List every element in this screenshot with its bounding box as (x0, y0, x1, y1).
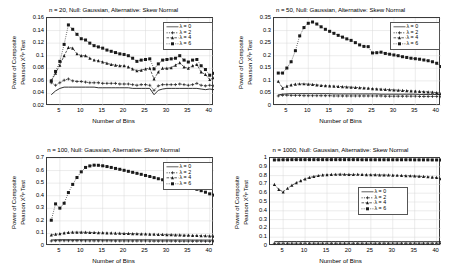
y-axis-label: Power of CompositePearson X2P Test (234, 158, 251, 246)
legend: λ = 0λ = 2λ = 4λ = 6 (358, 187, 408, 215)
legend-line-sample (361, 206, 374, 212)
y-axis-tick-label: 0.2 (259, 224, 267, 230)
x-axis-tick-label: 15 (325, 107, 331, 113)
y-axis-label: Power of CompositePearson X2P Test (238, 18, 255, 106)
x-axis-label: Number of Bins (0, 257, 227, 264)
y-axis-tick-label: 0.4 (259, 207, 267, 213)
y-axis-label: Power of CompositePearson X2P Test (11, 158, 28, 246)
legend-item: λ = 6 (359, 206, 407, 212)
x-axis-tick-label: 20 (120, 247, 126, 253)
x-axis-tick-label: 10 (304, 107, 310, 113)
y-axis-tick-label: 0.7 (36, 154, 44, 160)
x-axis-tick-label: 20 (347, 107, 353, 113)
x-axis-tick-label: 20 (120, 107, 126, 113)
x-axis-label: Number of Bins (227, 257, 454, 264)
y-axis-tick-label: 0.1 (263, 77, 271, 83)
subplot-top-right: n = 50, Null: Gaussian, Alternative: Ske… (227, 0, 454, 140)
x-axis-tick-label: 5 (281, 247, 284, 253)
x-axis-tick-label: 30 (163, 107, 169, 113)
y-axis-tick-label: 0.05 (260, 89, 271, 95)
x-axis-tick-label: 40 (205, 107, 211, 113)
y-axis-tick-label: 0.15 (260, 64, 271, 70)
x-axis-tick-label: 5 (57, 247, 60, 253)
x-axis-tick-label: 15 (323, 247, 329, 253)
x-axis-tick-label: 20 (345, 247, 351, 253)
y-axis-label-text: Power of CompositePearson X2P Test (11, 176, 26, 229)
x-axis-tick-label: 35 (184, 107, 190, 113)
x-axis-tick-label: 10 (77, 107, 83, 113)
y-axis-tick-label: 0.4 (36, 192, 44, 198)
x-axis-tick-label: 40 (432, 107, 438, 113)
y-axis-tick-label: 0.2 (263, 52, 271, 58)
legend-item: λ = 6 (164, 181, 212, 187)
subplot-title: n = 20, Null: Gaussian, Alternative: Ske… (0, 6, 227, 13)
legend: λ = 0λ = 2λ = 4λ = 6 (163, 162, 213, 190)
x-axis-tick-label: 10 (77, 247, 83, 253)
x-axis-label: Number of Bins (0, 117, 227, 124)
legend: λ = 0λ = 2λ = 4λ = 6 (390, 22, 440, 50)
y-axis-label-text: Power of CompositePearson X2P Test (238, 36, 253, 89)
y-axis-tick-label: 0.3 (263, 27, 271, 33)
x-axis-tick-label: 35 (410, 247, 416, 253)
y-axis-tick-label: 0.1 (36, 52, 44, 58)
y-axis-tick-label: 0.5 (259, 198, 267, 204)
y-axis-tick-label: 0.12 (33, 39, 44, 45)
y-axis-tick-label: 0.6 (36, 167, 44, 173)
x-axis-tick-label: 25 (141, 107, 147, 113)
subplot-bottom-left: n = 100, Null: Gaussian, Alternative: Sk… (0, 140, 227, 280)
y-axis-tick-label: 0.02 (33, 102, 44, 108)
y-axis-label-text: Power of CompositePearson X2P Test (11, 36, 26, 89)
x-axis-tick-label: 15 (98, 107, 104, 113)
y-axis-tick-label: 1 (264, 154, 267, 160)
subplot-title: n = 50, Null: Gaussian, Alternative: Ske… (227, 6, 454, 13)
legend-label: λ = 6 (407, 41, 419, 47)
y-axis-label: Power of CompositePearson X2P Test (11, 18, 28, 106)
subplot-title: n = 100, Null: Gaussian, Alternative: Sk… (0, 146, 227, 153)
y-axis-tick-label: 0.04 (33, 89, 44, 95)
x-axis-tick-label: 40 (205, 247, 211, 253)
x-axis-tick-label: 30 (389, 247, 395, 253)
subplot-top-left: n = 20, Null: Gaussian, Alternative: Ske… (0, 0, 227, 140)
legend-item: λ = 6 (391, 41, 439, 47)
y-axis-tick-label: 0.3 (259, 216, 267, 222)
y-axis-label-text: Power of CompositePearson X2P Test (234, 176, 249, 229)
y-axis-tick-label: 0.3 (36, 204, 44, 210)
x-axis-tick-label: 30 (390, 107, 396, 113)
y-axis-tick-label: 0.1 (259, 233, 267, 239)
x-axis-tick-label: 30 (163, 247, 169, 253)
x-axis-tick-label: 5 (284, 107, 287, 113)
y-axis-tick-label: 0.16 (33, 14, 44, 20)
y-axis-tick-label: 0.06 (33, 77, 44, 83)
x-axis-tick-label: 25 (368, 107, 374, 113)
y-axis-tick-label: 0.9 (259, 163, 267, 169)
y-axis-tick-label: 0.6 (259, 189, 267, 195)
x-axis-tick-label: 25 (367, 247, 373, 253)
power-curves-figure: n = 20, Null: Gaussian, Alternative: Ske… (0, 0, 454, 280)
y-axis-tick-label: 0.5 (36, 179, 44, 185)
x-axis-tick-label: 35 (411, 107, 417, 113)
y-axis-tick-label: 0 (264, 242, 267, 248)
legend-item: λ = 6 (164, 41, 212, 47)
y-axis-tick-label: 0.14 (33, 27, 44, 33)
legend-label: λ = 6 (180, 41, 192, 47)
x-axis-tick-label: 25 (141, 247, 147, 253)
legend: λ = 0λ = 2λ = 4λ = 6 (163, 22, 213, 50)
plot-area (269, 157, 440, 245)
y-axis-tick-label: 0.8 (259, 172, 267, 178)
y-axis-tick-label: 0.08 (33, 64, 44, 70)
y-axis-tick-label: 0.1 (36, 229, 44, 235)
subplot-bottom-right: n = 1000, Null: Gaussian, Alternative: S… (227, 140, 454, 280)
y-axis-tick-label: 0.7 (259, 180, 267, 186)
legend-line-sample (166, 41, 179, 47)
x-axis-tick-label: 15 (98, 247, 104, 253)
x-axis-tick-label: 10 (301, 247, 307, 253)
legend-label: λ = 6 (180, 181, 192, 187)
y-axis-tick-label: 0 (41, 242, 44, 248)
x-axis-tick-label: 40 (432, 247, 438, 253)
y-axis-tick-label: 0.2 (36, 217, 44, 223)
y-axis-tick-label: 0 (268, 102, 271, 108)
y-axis-tick-label: 0.35 (260, 14, 271, 20)
x-axis-tick-label: 35 (184, 247, 190, 253)
legend-label: λ = 6 (375, 206, 387, 212)
legend-line-sample (166, 181, 179, 187)
